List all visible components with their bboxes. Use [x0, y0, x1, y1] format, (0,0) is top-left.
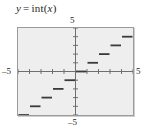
axis-label-xmax: 5 [136, 66, 141, 76]
caption-function-name: int [32, 2, 44, 14]
figure-int-function: y=int(x) 5 –5 –5 5 [0, 0, 156, 132]
axis-label-ymax: 5 [70, 15, 75, 25]
plot-area [17, 27, 134, 116]
axis-label-xmin: –5 [2, 66, 11, 76]
axis-label-ymin: –5 [68, 117, 77, 127]
caption-close-paren: ) [53, 2, 57, 14]
plot-canvas [18, 28, 133, 115]
axes-group [18, 28, 133, 115]
figure-caption: y=int(x) [16, 2, 57, 14]
caption-equals: = [21, 2, 31, 14]
